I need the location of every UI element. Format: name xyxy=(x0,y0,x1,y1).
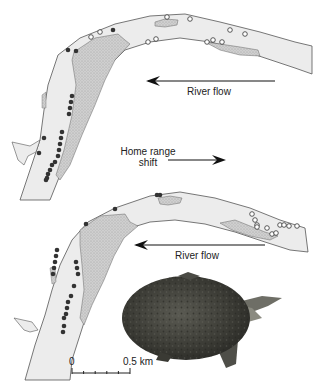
location-dot-filled xyxy=(67,112,72,117)
location-dot-open xyxy=(98,30,103,35)
location-dot-filled xyxy=(65,306,70,311)
scale-bar-start-label: 0 xyxy=(69,356,75,367)
location-dot-filled xyxy=(56,154,61,159)
bottom-panel-map xyxy=(14,192,308,380)
location-dot-open xyxy=(250,212,255,217)
location-dot-open xyxy=(243,32,248,37)
location-dot-filled xyxy=(84,222,89,227)
location-dot-open xyxy=(255,225,260,230)
location-dot-filled xyxy=(60,130,65,135)
location-dot-open xyxy=(253,218,258,223)
location-dot-filled xyxy=(72,284,77,289)
top-panel-map xyxy=(12,14,312,200)
location-dot-open xyxy=(282,223,287,228)
location-dot-filled xyxy=(158,193,163,198)
location-dot-filled xyxy=(69,100,74,105)
river-side-branch-bottom xyxy=(14,318,38,332)
location-dot-open xyxy=(287,224,292,229)
home-range-shift-line2: shift xyxy=(118,157,178,168)
location-dot-filled xyxy=(62,324,67,329)
location-dot-open xyxy=(295,224,300,229)
location-dot-filled xyxy=(57,148,62,153)
location-dot-filled xyxy=(58,142,63,147)
location-dot-filled xyxy=(46,172,51,177)
home-range-shift-label: Home range shift xyxy=(118,146,178,168)
location-dot-filled xyxy=(51,272,56,277)
home-range-shift-line1: Home range xyxy=(118,146,178,157)
location-dot-open xyxy=(89,35,94,40)
scale-bar xyxy=(72,368,130,374)
location-dot-filled xyxy=(69,294,74,299)
location-dot-filled xyxy=(74,260,79,265)
location-dot-filled xyxy=(48,168,53,173)
location-dot-open xyxy=(220,40,225,45)
location-dot-open xyxy=(188,17,193,22)
location-dot-filled xyxy=(52,266,57,271)
location-dot-filled xyxy=(74,49,79,54)
location-dot-filled xyxy=(61,330,66,335)
location-dot-filled xyxy=(113,207,118,212)
location-dot-filled xyxy=(66,48,71,53)
location-dot-open xyxy=(274,231,279,236)
location-dot-filled xyxy=(111,28,116,33)
location-dot-filled xyxy=(50,163,55,168)
river-flow-label-bottom: River flow xyxy=(175,250,219,261)
location-dot-filled xyxy=(42,136,47,141)
river-flow-label-top: River flow xyxy=(187,86,231,97)
location-dot-open xyxy=(154,37,159,42)
location-dot-filled xyxy=(59,136,64,141)
location-dot-filled xyxy=(44,178,49,183)
sandbar-left-edge-top xyxy=(42,92,46,108)
location-dot-filled xyxy=(64,312,69,317)
location-dot-open xyxy=(228,28,233,33)
scale-bar-end-label: 0.5 km xyxy=(123,356,153,367)
river-flow-arrow-bottom xyxy=(134,240,265,250)
location-dot-filled xyxy=(75,266,80,271)
river-flow-arrow-top xyxy=(146,76,275,86)
location-dot-open xyxy=(205,40,210,45)
location-dot-filled xyxy=(70,94,75,99)
location-dot-open xyxy=(165,15,170,20)
location-dot-filled xyxy=(53,260,58,265)
location-dot-filled xyxy=(76,272,81,277)
softshell-turtle-photo xyxy=(122,272,282,368)
location-dot-open xyxy=(265,226,270,231)
location-dot-open xyxy=(146,40,151,45)
location-dot-filled xyxy=(37,151,42,156)
location-dot-filled xyxy=(62,316,67,321)
home-range-map-figure xyxy=(0,0,326,386)
location-dot-open xyxy=(211,38,216,43)
location-dot-filled xyxy=(54,254,59,259)
location-dot-filled xyxy=(66,300,71,305)
location-dot-filled xyxy=(68,106,73,111)
location-dot-filled xyxy=(55,248,60,253)
